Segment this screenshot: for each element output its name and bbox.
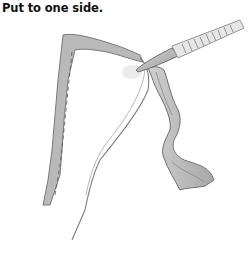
knife	[136, 20, 244, 72]
cut-strip	[148, 67, 214, 190]
flap	[43, 34, 149, 240]
knife-cutting-strip-illustration	[0, 0, 252, 258]
